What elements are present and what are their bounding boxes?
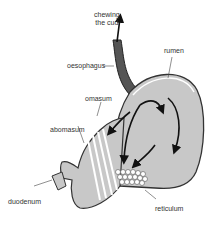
label-duodenum: duodenum	[8, 198, 41, 206]
label-chewing-the-cud: chewing the cud	[94, 11, 120, 27]
label-omasum: omasum	[85, 95, 112, 103]
label-oesophagus: oesophagus	[67, 62, 105, 70]
label-abomasum: abomasum	[50, 126, 85, 134]
oesophagus-shape	[113, 40, 138, 95]
ruminant-stomach-diagram: chewing the cud oesophagus rumen omasum …	[0, 0, 215, 226]
label-chewing-line2: the cud	[94, 19, 120, 27]
label-chewing-line1: chewing	[94, 11, 120, 19]
stomach-illustration	[0, 0, 215, 226]
label-reticulum: reticulum	[155, 205, 183, 213]
label-rumen: rumen	[164, 47, 184, 55]
reticulum-shape	[116, 170, 148, 186]
